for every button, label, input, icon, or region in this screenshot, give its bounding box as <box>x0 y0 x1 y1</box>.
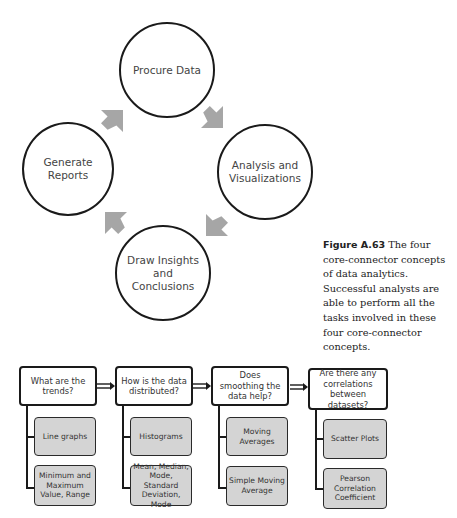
node-procure-data: Procure Data <box>119 22 215 118</box>
node-draw-insights: Draw Insights and Conclusions <box>115 225 211 321</box>
answer-mean-median-mode: Mean, Median, Mode, Standard Deviation, … <box>130 465 192 506</box>
node-generate-reports: Generate Reports <box>22 122 114 216</box>
arrow-analysis-to-insights-icon <box>206 214 228 236</box>
figure-label: Figure A.63 <box>323 239 385 250</box>
connector-line <box>218 406 220 489</box>
answer-histograms: Histograms <box>130 417 192 456</box>
connector-line <box>122 406 124 489</box>
double-arrow-icon <box>97 381 115 391</box>
double-arrow-icon <box>290 382 308 392</box>
question-correlations: Are there any correlations between datas… <box>308 368 388 410</box>
answer-simple-moving-average: Simple Moving Average <box>226 466 288 506</box>
node-label: Draw Insights and Conclusions <box>117 254 209 293</box>
question-trends: What are the trends? <box>19 366 97 406</box>
arrow-reports-to-procure-icon <box>101 110 123 132</box>
double-arrow-icon <box>193 381 211 391</box>
answer-min-max-range: Minimum and Maximum Value, Range <box>34 465 96 506</box>
question-distribution: How is the data distributed? <box>115 366 193 406</box>
question-smoothing: Does smoothing the data help? <box>211 366 289 406</box>
caption-text: The four core-connector concepts of data… <box>323 239 445 352</box>
node-label: Analysis and Visualizations <box>219 159 311 185</box>
connector-line <box>26 406 28 489</box>
node-label: Generate Reports <box>24 156 112 182</box>
answer-moving-averages: Moving Averages <box>226 417 288 456</box>
answer-scatter-plots: Scatter Plots <box>323 419 387 459</box>
answer-line-graphs: Line graphs <box>34 417 96 456</box>
arrow-procure-to-analysis-icon <box>201 106 223 128</box>
node-analysis-visualizations: Analysis and Visualizations <box>217 124 313 220</box>
answer-pearson-correlation: Pearson Correlation Coefficient <box>323 468 387 509</box>
connector-line <box>315 410 317 490</box>
figure-caption: Figure A.63 The four core-connector conc… <box>323 238 457 355</box>
arrow-insights-to-reports-icon <box>105 212 127 234</box>
node-label: Procure Data <box>125 64 209 77</box>
